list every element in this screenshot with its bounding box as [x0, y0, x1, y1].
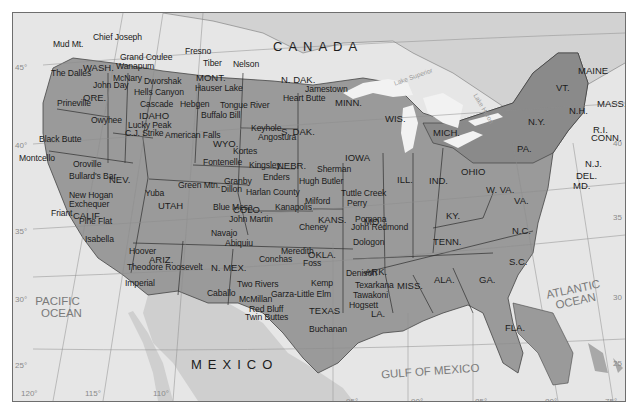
dam-label: Oroville [73, 160, 101, 169]
state-label: CONN. [591, 133, 622, 143]
dam-label: Theodore Roosevelt [127, 263, 203, 272]
dam-label: Hauser Lake [195, 84, 243, 93]
dam-label: Hebgen [180, 100, 210, 109]
dam-label: Sherman [317, 165, 351, 174]
dam-label: Bullard's Bar [69, 172, 116, 181]
lon-tick: 85° [475, 397, 487, 402]
dam-label: Owyhee [91, 116, 122, 125]
state-label: MINN. [335, 98, 362, 108]
dam-label: Pine Flat [79, 217, 112, 226]
dam-label: Garza-Little Elm [271, 290, 331, 299]
dam-label: Tuttle Creek [341, 189, 386, 198]
dam-label: Montcello [19, 154, 55, 163]
dam-label: Yuba [145, 189, 164, 198]
lat-tick: 35° [15, 227, 27, 236]
dam-label: Blue Mesa [213, 203, 253, 212]
state-label: OHIO [461, 167, 485, 177]
dam-label: Kingsley [249, 161, 281, 170]
dam-label: Buffalo Bill [201, 111, 240, 120]
dam-label: Fontenelle [203, 158, 242, 167]
dam-label: Harlan County [246, 188, 300, 197]
lat-tick: 25° [15, 361, 27, 370]
dam-label: Mud Mt. [53, 40, 83, 49]
dam-label: Imperial [125, 279, 155, 288]
dam-label: C.J. Strike [125, 129, 164, 138]
dam-label: Conchas [259, 255, 292, 264]
dam-label: Angostura [258, 133, 296, 142]
dam-label: Enders [263, 173, 290, 182]
state-label: N.J. [585, 159, 602, 169]
state-label: NEBR. [277, 161, 306, 171]
dam-label: John Day [93, 81, 129, 90]
dam-label: Caballo [207, 289, 235, 298]
state-label: IOWA [345, 153, 370, 163]
state-label: KY. [446, 211, 460, 221]
dam-label: Isabella [85, 235, 114, 244]
state-label: W. VA. [486, 185, 514, 195]
state-label: N.H. [569, 106, 588, 116]
dam-label: Hells Canyon [134, 88, 184, 97]
canada-label: CANADA [273, 39, 363, 54]
dam-label: Milford [305, 197, 330, 206]
state-label: N. MEX. [211, 263, 246, 273]
dam-label: Hogsett [349, 301, 378, 310]
lat-tick: 25 [613, 359, 622, 368]
dam-label: McMillan [239, 295, 272, 304]
dam-label: Green Mtn. [178, 181, 220, 190]
dam-label: Wanapum [116, 62, 154, 71]
lon-tick: 75° [605, 397, 617, 402]
dam-label: Black Butte [39, 135, 81, 144]
state-label: WIS. [385, 114, 406, 124]
dam-label: Dillon [221, 185, 242, 194]
state-label: S.C. [509, 257, 527, 267]
dam-label: Tawakoni [353, 291, 388, 300]
dam-label: Perry [347, 199, 367, 208]
state-label: MASS. [597, 99, 626, 109]
dam-label: Two Rivers [237, 280, 279, 289]
dam-label: Heart Butte [283, 94, 325, 103]
dam-label: Exchequer [69, 200, 109, 209]
state-label: UTAH [158, 201, 183, 211]
dam-label: Nelson [233, 60, 259, 69]
dam-label: Kortes [233, 147, 257, 156]
state-label: VT. [556, 83, 570, 93]
lat-tick: 35 [613, 213, 622, 222]
pacific-ocean-label: PACIFIC OCEAN [33, 295, 82, 319]
state-label: LA. [371, 309, 385, 319]
dam-label: Cheney [299, 223, 328, 232]
lon-tick: 80° [545, 397, 557, 402]
lon-tick: 110° [153, 389, 169, 398]
state-label: TENN. [433, 237, 462, 247]
state-label: GA. [479, 275, 495, 285]
dam-label: The Dalles [51, 69, 91, 78]
state-label: MONT. [196, 73, 226, 83]
state-label: TEXAS [309, 306, 340, 316]
dam-label: Fresno [185, 47, 211, 56]
dam-label: Twin Buttes [245, 313, 288, 322]
map-frame: CANADA MEXICO PACIFIC OCEAN ATLANTIC OCE… [12, 12, 626, 402]
dam-label: Prineville [57, 99, 91, 108]
state-label: MICH. [433, 128, 460, 138]
lat-tick: 45° [15, 63, 27, 72]
dam-label: Texarkana [355, 281, 394, 290]
dam-label: Hugh Butler [299, 177, 343, 186]
dam-label: Cascade [140, 100, 173, 109]
dam-label: Friant [51, 209, 72, 218]
dam-label: John Redmond [351, 223, 408, 232]
dam-label: Dologon [353, 238, 384, 247]
state-label: PA. [517, 144, 532, 154]
lon-tick: 120° [21, 389, 38, 398]
dam-label: Chief Joseph [93, 33, 142, 42]
dam-label: Tiber [203, 59, 222, 68]
dam-label: Kemp [311, 279, 333, 288]
dam-label: Tongue River [220, 101, 269, 110]
state-label: ALA. [434, 275, 455, 285]
dam-label: Dworshak [144, 77, 181, 86]
dam-label: American Falls [165, 131, 220, 140]
state-label: MISS. [397, 281, 423, 291]
state-label: MAINE [578, 66, 608, 76]
dam-label: Foss [303, 259, 321, 268]
state-label: ILL. [397, 175, 413, 185]
lat-tick: 30° [15, 295, 27, 304]
mexico-label: MEXICO [191, 357, 278, 372]
